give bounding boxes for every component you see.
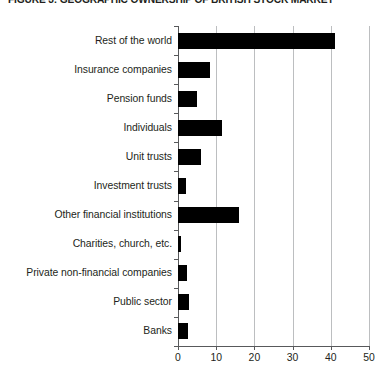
y-axis-label: Banks: [0, 325, 172, 337]
y-axis-label: Public sector: [0, 296, 172, 308]
x-axis-tick: [331, 346, 332, 350]
y-axis-labels: Rest of the worldInsurance companiesPens…: [0, 0, 387, 379]
x-axis-tick: [254, 346, 255, 350]
x-axis-tick-label: 0: [163, 352, 193, 364]
x-axis-tick-label: 10: [201, 352, 231, 364]
y-axis-label: Rest of the world: [0, 35, 172, 47]
x-axis-tick-label: 40: [316, 352, 346, 364]
y-axis-label: Unit trusts: [0, 151, 172, 163]
x-axis-tick: [216, 346, 217, 350]
x-axis-tick: [369, 346, 370, 350]
x-axis-tick: [293, 346, 294, 350]
bar-chart: Rest of the worldInsurance companiesPens…: [0, 0, 387, 379]
x-axis-tick-label: 50: [354, 352, 384, 364]
y-axis-label: Private non-financial companies: [0, 267, 172, 279]
y-axis-label: Charities, church, etc.: [0, 238, 172, 250]
x-axis-tick-label: 30: [278, 352, 308, 364]
x-axis-tick-label: 20: [239, 352, 269, 364]
y-axis-label: Investment trusts: [0, 180, 172, 192]
y-axis-label: Other financial institutions: [0, 209, 172, 221]
y-axis-label: Individuals: [0, 122, 172, 134]
x-axis-tick: [178, 346, 179, 350]
y-axis-label: Pension funds: [0, 93, 172, 105]
y-axis-label: Insurance companies: [0, 64, 172, 76]
